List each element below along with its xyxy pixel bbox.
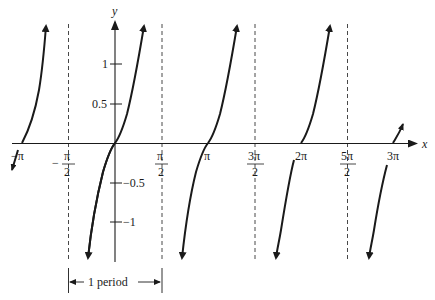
x-tick-labels: −π − π 2 π 2 π 3π 2 2π 5π 2 3π bbox=[11, 149, 399, 179]
period-label: 1 period bbox=[88, 275, 128, 289]
y-tick-0.5: 0.5 bbox=[92, 97, 107, 111]
x-tick-neg-pi-half-sign: − bbox=[52, 156, 59, 170]
x-tick-neg-pi-half-den: 2 bbox=[64, 165, 70, 179]
x-axis-label: x bbox=[421, 137, 428, 151]
branch-3pi bbox=[393, 124, 403, 143]
y-axis-label: y bbox=[111, 4, 118, 18]
y-tick-neg-0.5: −0.5 bbox=[123, 176, 145, 190]
tangent-curves bbox=[12, 26, 403, 258]
x-tick-pi: π bbox=[204, 149, 210, 163]
x-tick-pi-half-den: 2 bbox=[158, 165, 164, 179]
x-tick-3pi-half-den: 2 bbox=[252, 165, 258, 179]
x-tick-neg-pi-half-num: π bbox=[64, 149, 70, 163]
x-tick-2pi: 2π bbox=[295, 149, 307, 163]
branch-neg-pi bbox=[22, 26, 46, 143]
branch-2pi bbox=[301, 26, 330, 143]
tangent-graph: x y 1 0.5 −0.5 −1 −π − π 2 π 2 π 3π 2 2π… bbox=[0, 0, 435, 300]
branch-pi bbox=[208, 26, 237, 143]
x-tick-pi-half-num: π bbox=[157, 149, 163, 163]
y-tick-neg-1: −1 bbox=[123, 215, 136, 229]
x-tick-5pi-half-num: 5π bbox=[341, 149, 353, 163]
x-tick-3pi-half-num: 3π bbox=[248, 149, 260, 163]
x-tick-3pi: 3π bbox=[387, 149, 399, 163]
x-tick-5pi-half-den: 2 bbox=[344, 165, 350, 179]
period-annotation: 1 period bbox=[69, 268, 163, 293]
y-tick-1: 1 bbox=[102, 57, 108, 71]
